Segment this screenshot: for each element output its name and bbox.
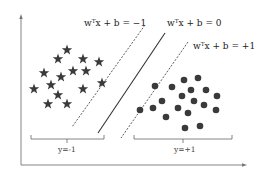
- circle-icon: [175, 105, 182, 112]
- circle-icon: [191, 98, 198, 105]
- positive-margin-line: [121, 42, 188, 138]
- star-icon: [78, 54, 88, 64]
- star-icon: [39, 68, 49, 78]
- star-icon: [62, 99, 72, 109]
- star-icon: [29, 84, 39, 94]
- negative-margin-label: wᵀx + b = −1: [84, 18, 146, 28]
- positive-class-points: [137, 75, 221, 132]
- circle-icon: [214, 93, 221, 100]
- circle-icon: [203, 87, 210, 94]
- circle-icon: [197, 123, 204, 130]
- circle-icon: [159, 98, 166, 105]
- star-icon: [62, 45, 72, 55]
- circle-icon: [169, 84, 176, 91]
- star-icon: [94, 57, 104, 67]
- positive-class-bracket: [134, 135, 232, 143]
- circle-icon: [150, 105, 157, 112]
- circle-icon: [181, 77, 188, 84]
- negative-margin-line: [72, 25, 145, 127]
- circle-icon: [179, 93, 186, 100]
- star-icon: [53, 54, 63, 64]
- circle-icon: [182, 125, 189, 132]
- circle-icon: [195, 75, 202, 82]
- circle-icon: [201, 102, 208, 109]
- y-axis-arrow-icon: [19, 14, 22, 19]
- circle-icon: [163, 114, 170, 121]
- circle-icon: [152, 83, 159, 90]
- negative-class-points: [29, 45, 107, 109]
- positive-margin-label: wᵀx + b = +1: [193, 41, 255, 51]
- negative-class-label: y=-1: [58, 145, 76, 154]
- star-icon: [78, 84, 88, 94]
- star-icon: [97, 78, 107, 88]
- x-axis-arrow-icon: [242, 163, 247, 166]
- star-icon: [53, 90, 63, 100]
- decision-boundary-label: wᵀx + b = 0: [167, 18, 222, 28]
- circle-icon: [188, 87, 195, 94]
- positive-class-label: y=+1: [174, 145, 196, 154]
- circle-icon: [137, 107, 144, 114]
- star-icon: [43, 99, 53, 109]
- star-icon: [56, 72, 66, 82]
- circle-icon: [213, 107, 220, 114]
- circle-icon: [185, 110, 192, 117]
- star-icon: [81, 66, 91, 76]
- star-icon: [68, 66, 78, 76]
- axes: [19, 14, 247, 167]
- star-icon: [46, 80, 56, 90]
- negative-class-bracket: [31, 135, 104, 143]
